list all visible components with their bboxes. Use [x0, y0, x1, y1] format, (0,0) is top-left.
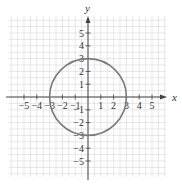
y-axis-arrow-icon [86, 16, 91, 23]
x-tick-label: 2 [111, 100, 116, 111]
y-tick-label: −1 [73, 104, 84, 115]
y-tick-label: 2 [79, 66, 84, 77]
x-tick-label: 1 [98, 100, 103, 111]
y-tick-label: 4 [79, 40, 84, 51]
x-tick-label: −4 [31, 100, 42, 111]
x-tick-label: −2 [57, 100, 68, 111]
coordinate-plane: −5−4−3−2−112345−5−4−3−2−112345 xy [0, 0, 182, 188]
x-axis-label: x [171, 91, 177, 103]
y-tick-label: 5 [79, 28, 84, 39]
y-tick-label: −4 [73, 143, 84, 154]
x-tick-label: 4 [137, 100, 142, 111]
x-tick-label: 5 [150, 100, 155, 111]
y-tick-label: −2 [73, 117, 84, 128]
x-tick-label: −5 [19, 100, 30, 111]
x-axis-arrow-icon [160, 95, 167, 100]
y-tick-label: 1 [79, 79, 84, 90]
y-tick-label: −5 [73, 156, 84, 167]
y-axis-label: y [84, 2, 90, 14]
